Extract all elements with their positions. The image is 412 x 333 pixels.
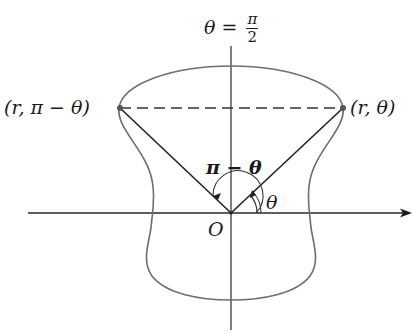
- pi-over-2-fraction: π2: [246, 12, 258, 45]
- point-right: [340, 105, 346, 111]
- theta-symbol: θ: [204, 16, 215, 38]
- point-right-label: (r, θ): [350, 98, 395, 117]
- angle-arc-theta-inner: [250, 195, 257, 213]
- origin-point: [229, 211, 232, 214]
- angle-theta-label: θ: [266, 193, 277, 212]
- origin-label: O: [208, 220, 224, 239]
- fraction-numerator: π: [246, 12, 258, 29]
- point-left: [117, 105, 123, 111]
- fraction-denominator: 2: [248, 29, 258, 45]
- arc-arrowhead-icon: [213, 193, 221, 200]
- theta-equals-pi-over-2-label: θ = π2: [204, 12, 258, 45]
- equals-sign: =: [215, 16, 243, 38]
- point-left-label: (r, π − θ): [4, 98, 90, 117]
- angle-pi-minus-theta-label: π − θ: [206, 158, 262, 177]
